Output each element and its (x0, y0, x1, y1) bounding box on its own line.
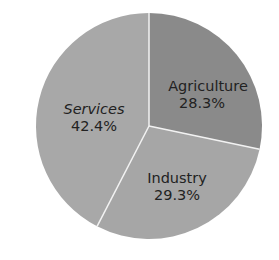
slice-label-value: 42.4% (71, 118, 117, 134)
slice-label-value: 29.3% (154, 187, 200, 203)
label-services: Services 42.4% (63, 101, 125, 134)
label-industry: Industry 29.3% (147, 170, 207, 203)
slice-label-name: Industry (147, 170, 207, 186)
slice-label-value: 28.3% (179, 95, 225, 111)
slice-label-name: Agriculture (168, 78, 248, 94)
pie-slices (36, 13, 262, 239)
slice-label-name: Services (63, 101, 125, 117)
pie-chart: Agriculture 28.3% Industry 29.3% Service… (0, 0, 279, 260)
